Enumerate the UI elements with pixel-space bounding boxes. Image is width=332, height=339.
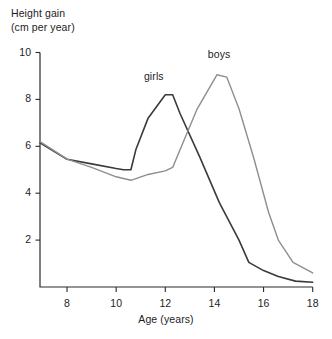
- x-tick-label-12: 12: [152, 297, 178, 309]
- x-tick-label-8: 8: [54, 297, 80, 309]
- series-line-girls: [40, 95, 313, 283]
- y-tick-label-2: 2: [7, 233, 31, 245]
- y-tick-label-10: 10: [7, 46, 31, 58]
- y-tick-label-6: 6: [7, 139, 31, 151]
- axis-lines: [40, 53, 313, 288]
- x-tick-label-18: 18: [300, 297, 326, 309]
- y-tick-label-8: 8: [7, 92, 31, 104]
- x-axis-title: Age (years): [0, 313, 332, 325]
- y-tick-label-4: 4: [7, 186, 31, 198]
- x-tick-label-16: 16: [251, 297, 277, 309]
- series-annotation-girls: girls: [144, 70, 164, 82]
- plot-area: [0, 0, 332, 339]
- series-annotation-boys: boys: [208, 48, 231, 60]
- height-gain-line-chart: Height gain(cm per year) 108642 81012141…: [0, 0, 332, 339]
- x-tick-label-14: 14: [201, 297, 227, 309]
- x-tick-label-10: 10: [103, 297, 129, 309]
